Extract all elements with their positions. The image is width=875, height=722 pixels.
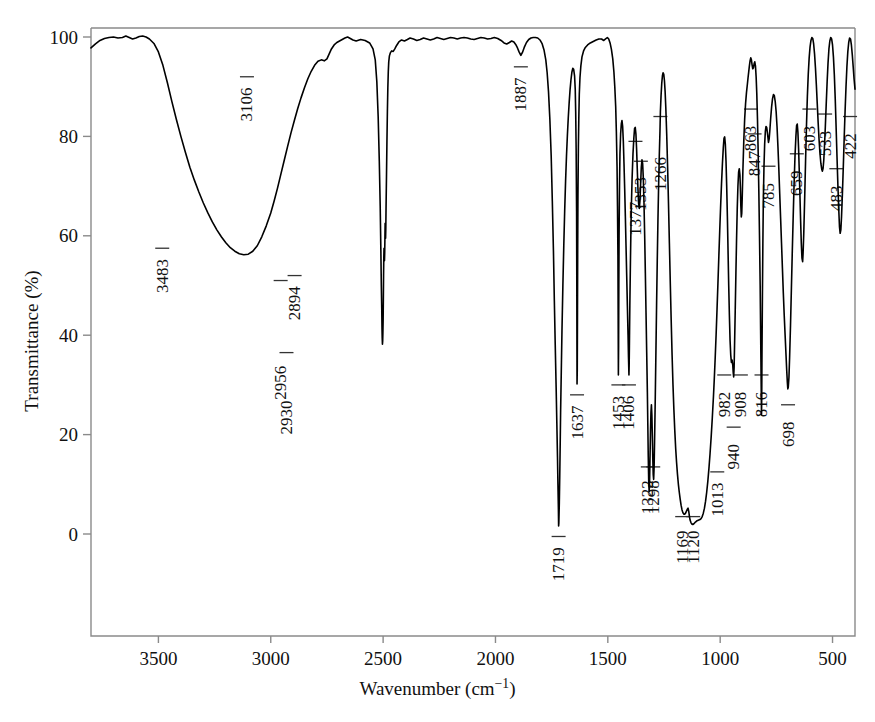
peak-label: 940 xyxy=(724,444,743,470)
peak-annotations: 3483310629562930289418871719163714531406… xyxy=(153,67,860,581)
y-tick-label: 60 xyxy=(59,225,78,246)
x-axis-title-close: ) xyxy=(509,678,515,699)
y-tick-label: 100 xyxy=(50,27,79,48)
x-axis-title: Wavenumber (cm−1) xyxy=(0,676,875,700)
peak-label: 785 xyxy=(759,183,778,209)
x-axis-unit-exponent: −1 xyxy=(495,676,510,691)
y-tick-label: 80 xyxy=(59,126,78,147)
peak-label: 3483 xyxy=(153,259,172,293)
peak-label: 1298 xyxy=(644,480,663,514)
peak-label: 2894 xyxy=(285,286,304,321)
peak-label: 2930 xyxy=(277,401,296,435)
peak-label: 1120 xyxy=(684,530,703,563)
ftir-spectrum-figure: 350030002500200015001000500 020406080100… xyxy=(0,0,875,722)
peak-label: 2956 xyxy=(271,366,290,400)
x-tick-label: 3000 xyxy=(252,648,290,669)
x-tick-label: 500 xyxy=(818,648,847,669)
x-tick-label: 2000 xyxy=(476,648,514,669)
x-tick-label: 1000 xyxy=(701,648,739,669)
x-axis-ticks: 350030002500200015001000500 xyxy=(139,636,846,669)
y-tick-label: 20 xyxy=(59,424,78,445)
axes-frame xyxy=(91,28,855,636)
peak-label: 698 xyxy=(779,422,798,448)
peak-label: 1406 xyxy=(619,396,638,430)
peak-label: 908 xyxy=(731,392,750,418)
y-axis-title: Transmittance (%) xyxy=(21,191,43,491)
peak-label: 847 xyxy=(745,150,764,176)
x-tick-label: 1500 xyxy=(589,648,627,669)
spectrum-plot-svg: 350030002500200015001000500 020406080100… xyxy=(0,0,875,722)
peak-label: 659 xyxy=(787,171,806,197)
y-axis-ticks: 020406080100 xyxy=(50,27,92,545)
x-tick-label: 3500 xyxy=(139,648,177,669)
peak-label: 1013 xyxy=(708,483,727,517)
x-tick-label: 2500 xyxy=(364,648,402,669)
y-tick-label: 0 xyxy=(69,524,79,545)
peak-label: 1637 xyxy=(568,405,587,440)
x-axis-title-text: Wavenumber (cm xyxy=(360,678,495,699)
peak-label: 1887 xyxy=(511,77,530,112)
y-tick-label: 40 xyxy=(59,325,78,346)
peak-label: 3106 xyxy=(237,87,256,121)
peak-label: 1719 xyxy=(549,547,568,581)
